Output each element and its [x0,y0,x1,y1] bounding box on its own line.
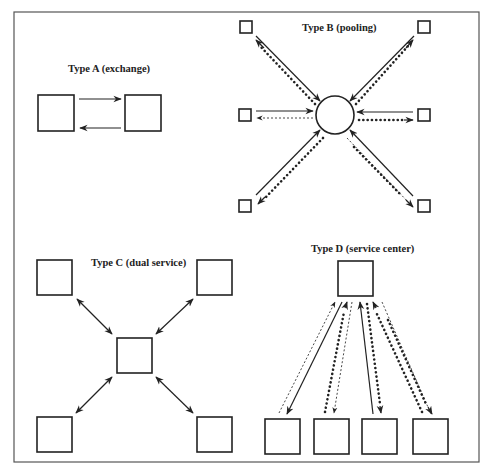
figure-frame [14,12,479,462]
node-c-bottom-left [37,417,72,452]
panel-c-title: Type C (dual service) [91,257,187,269]
node-b-bottom-right [418,200,430,212]
panel-d-title: Type D (service center) [311,243,415,255]
arrowhead-b-br-out [406,200,413,207]
node-a-right [125,95,161,131]
arrow-d-1-down [287,302,342,414]
arrowhead-d-3-down [380,406,381,413]
arrow-d-2-up [325,312,344,412]
arrow-b-bl-out [266,138,323,197]
arrow-c-bl [76,377,112,413]
arrowhead-d-4-up [373,302,376,308]
diagram-canvas: Type A (exchange) Type B (pooling) [0,0,489,474]
node-b-mid-right [418,109,430,121]
node-d-client-2 [314,419,349,454]
arrow-c-tr [156,299,193,334]
arrow-b-bl-in [256,130,320,195]
node-b-mid-left [239,109,251,121]
arrow-c-br [156,377,193,413]
node-c-center [117,338,152,373]
panel-b-title: Type B (pooling) [302,22,377,34]
arrowhead-b-bl-out [258,197,265,204]
arrow-b-tr-out [356,46,408,104]
arrow-c-tl [77,299,112,334]
node-d-client-3 [362,419,397,454]
arrow-d-4-down-dots [388,320,426,404]
panel-a-title: Type A (exchange) [68,63,151,75]
node-d-center [338,261,373,296]
arrowhead-d-2-up [345,302,347,308]
panel-type-c: Type C (dual service) [37,257,232,452]
arrow-b-tl-out [260,46,315,104]
panel-type-b: Type B (pooling) [239,21,430,212]
arrowhead-d-4-down [428,407,432,414]
node-b-top-left [240,21,252,33]
pool-center-circle [316,96,354,134]
arrow-d-1-up [279,302,335,413]
arrow-b-br-in [350,130,413,196]
node-b-top-right [418,21,430,33]
arrow-d-3-up [360,302,373,414]
node-b-bottom-left [239,200,251,212]
arrow-b-tr-in [350,36,414,101]
panel-type-a: Type A (exchange) [38,63,161,131]
node-c-bottom-right [197,417,232,452]
arrow-b-tl-in [256,36,320,101]
node-c-top-right [197,260,232,295]
node-d-client-1 [265,419,300,454]
panel-type-d: Type D (service center) [265,243,448,454]
arrowhead-b-tl-out [256,40,264,48]
node-d-client-4 [413,419,448,454]
node-c-top-left [37,260,72,295]
node-a-left [38,95,74,131]
arrow-d-4-up [376,312,422,412]
